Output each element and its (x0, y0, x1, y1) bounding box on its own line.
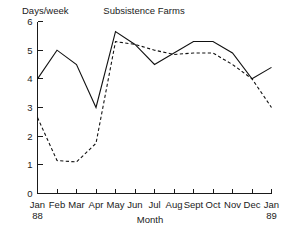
x-axis-tick-label: Jan (30, 199, 45, 210)
chart-title: Subsistence Farms (103, 5, 185, 16)
x-axis-tick-label: Aug (166, 199, 183, 210)
y-axis-ticks (38, 22, 43, 194)
y-axis-tick-labels: 0123456 (27, 16, 32, 199)
x-axis-ticks (38, 189, 272, 194)
y-axis-tick-label: 6 (27, 16, 32, 27)
line-chart: 0123456 Jan88FebMarAprMayJunJulAugSeptOc… (0, 0, 283, 228)
series-group (38, 32, 272, 162)
y-axis-tick-label: 4 (27, 73, 32, 84)
x-axis-tick-label: Oct (206, 199, 221, 210)
x-axis-tick-label: Mar (68, 199, 84, 210)
labels-group: 0123456 Jan88FebMarAprMayJunJulAugSeptOc… (22, 5, 279, 225)
y-axis-tick-label: 2 (27, 131, 32, 142)
y-axis-tick-label: 1 (27, 159, 32, 170)
x-axis-year-label: 88 (32, 210, 43, 221)
y-axis-tick-label: 0 (27, 188, 32, 199)
x-axis-tick-label: Feb (49, 199, 65, 210)
x-axis-year-label: 89 (266, 210, 277, 221)
x-axis-tick-label: Sept (184, 199, 204, 210)
series-line-solid (38, 32, 272, 108)
y-axis-label: Days/week (22, 5, 69, 16)
axes-group (38, 22, 272, 194)
y-axis-tick-label: 3 (27, 102, 32, 113)
y-axis-tick-label: 5 (27, 45, 32, 56)
x-axis-tick-label: May (107, 199, 125, 210)
x-axis-tick-label: Jul (148, 199, 160, 210)
x-axis-tick-label: Nov (224, 199, 241, 210)
x-axis-tick-label: Apr (89, 199, 104, 210)
x-axis-tick-label: Jun (127, 199, 142, 210)
x-axis-tick-label: Dec (244, 199, 261, 210)
series-line-dashed (38, 42, 272, 162)
x-axis-tick-label: Jan (264, 199, 279, 210)
x-axis-label: Month (137, 214, 163, 225)
chart-container: 0123456 Jan88FebMarAprMayJunJulAugSeptOc… (0, 0, 283, 228)
